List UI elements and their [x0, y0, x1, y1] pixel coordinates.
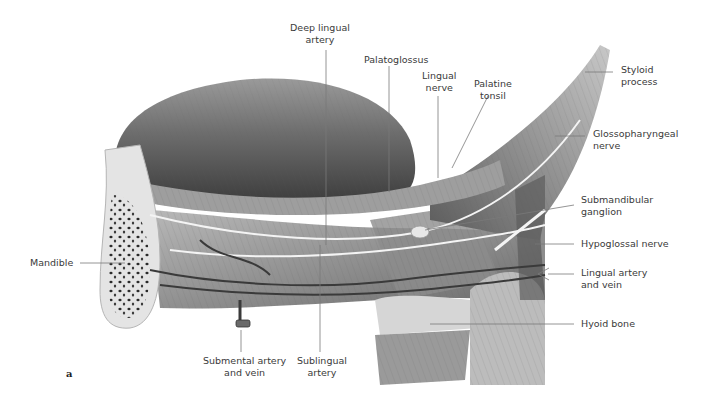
label-sublingual-artery: Sublingual artery	[297, 355, 347, 379]
tongue-dorsum	[115, 78, 505, 215]
label-hypoglossal-nerve: Hypoglossal nerve	[581, 238, 669, 250]
submental-vessel-cut	[236, 320, 250, 327]
label-hyoid-bone: Hyoid bone	[581, 318, 635, 330]
label-palatine-tonsil: Palatine tonsil	[474, 78, 512, 102]
panel-letter: a	[66, 368, 72, 379]
label-submental-artery-vein: Submental artery and vein	[203, 355, 286, 379]
label-styloid-process: Styloid process	[621, 64, 658, 88]
submandibular-ganglion-shape	[411, 226, 429, 238]
label-lingual-nerve: Lingual nerve	[422, 70, 456, 94]
anatomy-figure: Deep lingual artery Palatoglossus Lingua…	[0, 0, 706, 406]
label-lingual-artery-vein: Lingual artery and vein	[581, 267, 647, 291]
label-glossopharyngeal-nerve: Glossopharyngeal nerve	[593, 128, 678, 152]
label-submandibular-ganglion: Submandibular ganglion	[581, 194, 653, 218]
label-mandible: Mandible	[30, 257, 73, 269]
label-palatoglossus: Palatoglossus	[364, 54, 428, 66]
label-deep-lingual-artery: Deep lingual artery	[290, 22, 350, 46]
